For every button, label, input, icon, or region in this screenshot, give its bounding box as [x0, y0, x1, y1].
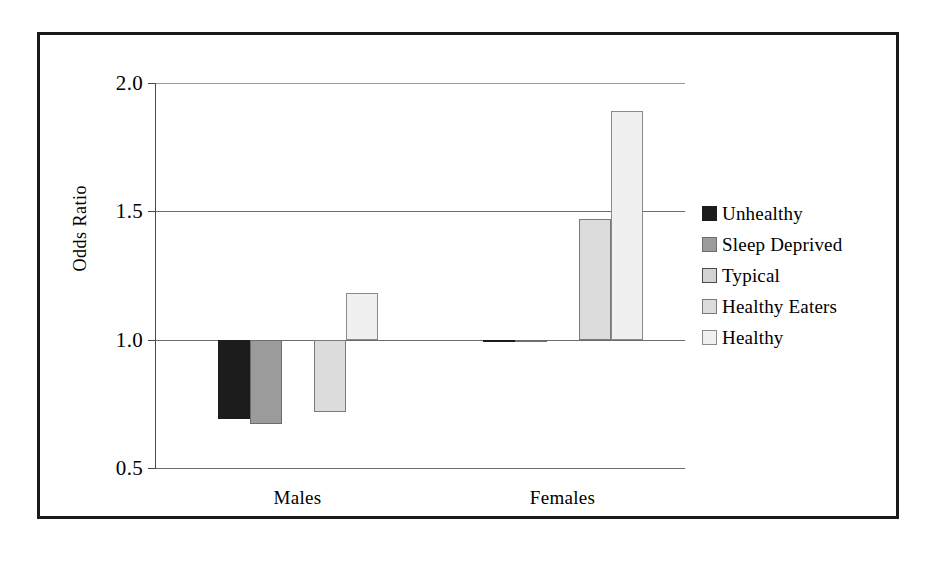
legend-swatch-icon — [702, 268, 717, 283]
x-tick-label-females: Females — [530, 487, 595, 509]
legend-swatch-icon — [702, 330, 717, 345]
bar — [579, 219, 611, 340]
legend-item: Healthy Eaters — [702, 291, 892, 322]
y-tick-mark — [148, 340, 156, 341]
legend-item: Healthy — [702, 322, 892, 353]
legend-swatch-icon — [702, 299, 717, 314]
bar — [611, 111, 643, 339]
bar — [483, 340, 515, 343]
plot-area: 0.51.01.52.0 MalesFemales — [155, 83, 685, 516]
legend-label: Typical — [722, 266, 780, 285]
legend-item: Typical — [702, 260, 892, 291]
legend-label: Unhealthy — [722, 204, 803, 223]
plot-canvas: 0.51.01.52.0 MalesFemales — [155, 83, 685, 516]
y-axis-title: Odds Ratio — [70, 185, 91, 272]
chart-legend: UnhealthySleep DeprivedTypicalHealthy Ea… — [702, 198, 892, 353]
bar — [218, 340, 250, 420]
legend-item: Unhealthy — [702, 198, 892, 229]
gridline-2.0: 2.0 — [155, 83, 685, 84]
y-tick-mark — [148, 83, 156, 84]
gridline-0.5: 0.5 — [155, 468, 685, 469]
y-tick-mark — [148, 211, 156, 212]
y-axis-line — [155, 83, 156, 468]
y-tick-label: 1.5 — [116, 201, 143, 222]
legend-label: Healthy Eaters — [722, 297, 837, 316]
bar — [314, 340, 346, 412]
legend-swatch-icon — [702, 206, 717, 221]
chart-figure: Odds Ratio 0.51.01.52.0 MalesFemales Unh… — [37, 32, 899, 519]
bar — [515, 340, 547, 343]
x-tick-label-males: Males — [274, 487, 322, 509]
legend-label: Sleep Deprived — [722, 235, 842, 254]
y-tick-label: 0.5 — [116, 458, 143, 479]
gridline-1.5: 1.5 — [155, 211, 685, 212]
y-tick-label: 2.0 — [116, 73, 143, 94]
bar — [346, 293, 378, 339]
legend-item: Sleep Deprived — [702, 229, 892, 260]
y-tick-label: 1.0 — [116, 329, 143, 350]
legend-swatch-icon — [702, 237, 717, 252]
legend-label: Healthy — [722, 328, 784, 347]
bar — [250, 340, 282, 425]
y-tick-mark — [148, 468, 156, 469]
